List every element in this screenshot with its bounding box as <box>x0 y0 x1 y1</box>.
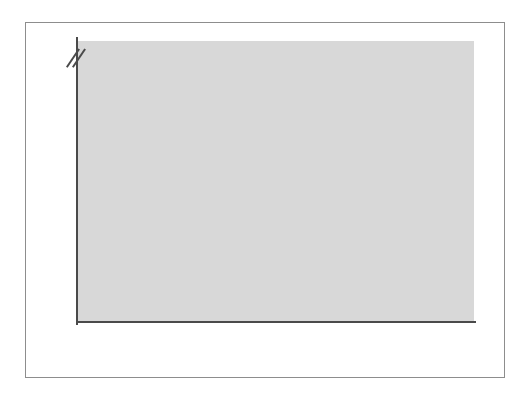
y-axis-title <box>24 0 38 127</box>
life-stage-brackets <box>78 367 478 399</box>
plot-area <box>78 41 474 321</box>
sleep-area-series <box>78 41 474 321</box>
figure-frame <box>25 22 505 378</box>
y-axis-break-icon <box>69 47 89 69</box>
x-axis-line <box>76 321 476 323</box>
